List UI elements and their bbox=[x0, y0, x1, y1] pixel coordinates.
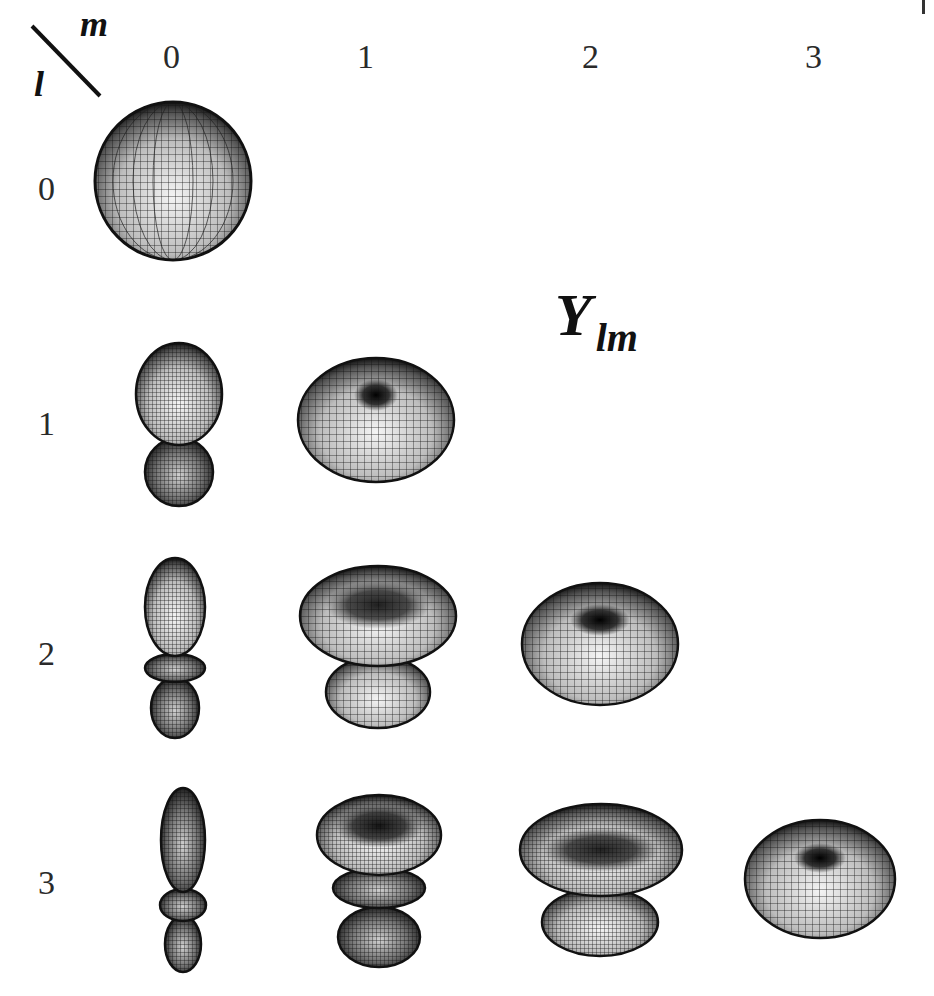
harmonic-y32-bowl bbox=[520, 804, 682, 956]
harmonic-y00-sphere bbox=[95, 102, 251, 260]
harmonic-y22-torus bbox=[522, 583, 678, 705]
harmonic-y21-bowl bbox=[300, 566, 456, 728]
harmonic-y11-torus bbox=[298, 358, 454, 482]
harmonic-y31-stacked bbox=[317, 795, 441, 967]
harmonic-y33-torus bbox=[745, 820, 895, 938]
harmonic-y20-lobes bbox=[145, 558, 205, 738]
harmonics-plot bbox=[0, 0, 934, 996]
harmonic-y10-dumbbell bbox=[136, 343, 222, 506]
harmonic-y30-slender-lobes bbox=[160, 788, 206, 972]
